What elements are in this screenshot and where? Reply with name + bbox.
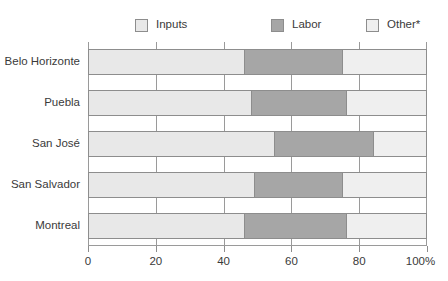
axis-tick-label: 80 bbox=[353, 255, 366, 267]
legend-item-labor: Labor bbox=[271, 16, 321, 34]
legend-item-inputs: Inputs bbox=[135, 16, 187, 34]
category-label: Puebla bbox=[0, 96, 80, 108]
bar-segment-other bbox=[342, 49, 427, 75]
axis-tick-label: 100% bbox=[406, 255, 435, 267]
bar-segment-labor bbox=[244, 213, 346, 239]
legend-swatch-other bbox=[366, 19, 379, 32]
axis-tick-mark bbox=[427, 246, 428, 252]
value-axis: 020406080100% bbox=[88, 246, 427, 276]
bar-segment-inputs bbox=[88, 49, 244, 75]
axis-tick-mark bbox=[88, 246, 89, 252]
axis-tick-label: 20 bbox=[149, 255, 162, 267]
axis-tick-mark bbox=[291, 246, 292, 252]
bar-segment-labor bbox=[274, 131, 372, 157]
bar-segment-labor bbox=[251, 90, 346, 116]
stacked-bar-chart: Inputs Labor Other* Belo HorizontePuebla… bbox=[0, 0, 448, 281]
bar-segment-labor bbox=[244, 49, 342, 75]
category-label: San José bbox=[0, 137, 80, 149]
bar-segment-labor bbox=[254, 172, 342, 198]
bar-segment-inputs bbox=[88, 131, 274, 157]
bar-segment-other bbox=[373, 131, 427, 157]
bar-segment-inputs bbox=[88, 172, 254, 198]
bar-segment-other bbox=[346, 90, 427, 116]
legend-item-other: Other* bbox=[366, 16, 420, 34]
legend-label-inputs: Inputs bbox=[156, 19, 187, 31]
axis-tick-mark bbox=[156, 246, 157, 252]
axis-tick-label: 60 bbox=[285, 255, 298, 267]
bar-row bbox=[88, 131, 427, 157]
bar-row bbox=[88, 90, 427, 116]
legend-swatch-inputs bbox=[135, 19, 148, 32]
bar-row bbox=[88, 213, 427, 239]
legend-swatch-labor bbox=[271, 19, 284, 32]
bar-segment-other bbox=[346, 213, 427, 239]
chart-legend: Inputs Labor Other* bbox=[0, 12, 448, 38]
legend-label-other: Other* bbox=[387, 19, 420, 31]
legend-label-labor: Labor bbox=[292, 19, 321, 31]
bar-segment-other bbox=[342, 172, 427, 198]
axis-tick-label: 40 bbox=[217, 255, 230, 267]
axis-tick-mark bbox=[359, 246, 360, 252]
plot-area bbox=[88, 42, 427, 246]
bar-segment-inputs bbox=[88, 90, 251, 116]
category-label: San Salvador bbox=[0, 178, 80, 190]
category-label: Montreal bbox=[0, 219, 80, 231]
axis-tick-mark bbox=[224, 246, 225, 252]
axis-tick-label: 0 bbox=[85, 255, 91, 267]
bar-row bbox=[88, 172, 427, 198]
bar-segment-inputs bbox=[88, 213, 244, 239]
bar-row bbox=[88, 49, 427, 75]
category-label: Belo Horizonte bbox=[0, 55, 80, 67]
